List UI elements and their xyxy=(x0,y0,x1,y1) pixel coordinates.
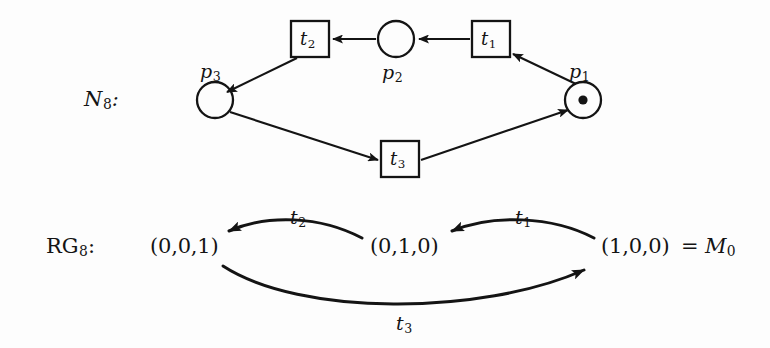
rg-edge-label-t1: t1 xyxy=(515,208,531,229)
petri-net-name: N8: xyxy=(84,89,119,112)
transition-label-t2: t2 xyxy=(300,30,315,50)
initial-marking-subscript: 0 xyxy=(726,243,735,259)
rg-name-suffix: : xyxy=(88,234,95,258)
initial-marking-label: M xyxy=(705,234,726,258)
rg-edge-label-t2: t2 xyxy=(290,208,306,229)
petri-net-name-subscript: 8 xyxy=(102,96,111,112)
arc-t3-to-p1 xyxy=(421,110,568,160)
rg-state-010: (0,1,0) xyxy=(370,236,438,257)
place-label-p2: p2 xyxy=(382,63,403,84)
arc-p1-to-t1 xyxy=(513,54,576,84)
token-dot xyxy=(578,95,587,104)
place-label-p1: p1 xyxy=(569,62,590,83)
rg-edge-label-t3: t3 xyxy=(396,314,412,335)
arc-p3-to-t3 xyxy=(230,112,378,160)
arc-t2-to-p3 xyxy=(227,58,297,92)
equals-sign: = xyxy=(681,234,698,258)
figure-canvas: N8: p3 p2 p1 t2 t1 t3 RG8: (0,0,1) (0,1,… xyxy=(0,0,770,348)
place-p1 xyxy=(565,82,601,118)
transition-label-t1: t1 xyxy=(481,30,496,50)
rg-name-subscript: 8 xyxy=(79,243,88,259)
place-p3 xyxy=(197,82,233,118)
rg-name-text: RG xyxy=(46,234,79,258)
petri-net-name-text: N xyxy=(84,87,102,111)
place-p2 xyxy=(378,21,414,57)
petri-net-name-suffix: : xyxy=(112,87,119,111)
rg-state-100: (1,0,0) xyxy=(601,236,669,257)
diagram-vector-layer xyxy=(0,0,770,348)
rg-edge-t3 xyxy=(223,266,584,304)
rg-state-001: (0,0,1) xyxy=(150,236,218,257)
reachability-graph-name: RG8: xyxy=(46,236,95,259)
initial-marking-annotation: = M0 xyxy=(681,236,735,259)
place-label-p3: p3 xyxy=(200,62,221,83)
transition-label-t3: t3 xyxy=(390,150,405,170)
